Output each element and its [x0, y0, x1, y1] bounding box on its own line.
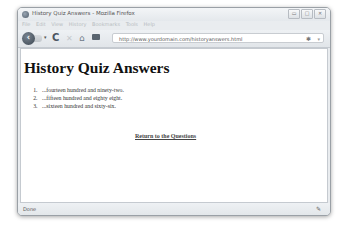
menu-bar: File Edit View History Bookmarks Tools H… — [18, 21, 330, 30]
page-content: History Quiz Answers ...fourteen hundred… — [20, 48, 328, 203]
back-arrow-icon: ‹ — [27, 33, 30, 42]
window-title: History Quiz Answers - Mozilla Firefox — [32, 10, 135, 16]
reload-icon[interactable]: C — [52, 32, 59, 44]
history-dropdown-icon[interactable]: ▾ — [44, 34, 47, 40]
title-bar: History Quiz Answers - Mozilla Firefox ▭… — [18, 8, 330, 21]
url-dropdown-icon[interactable]: ▾ — [317, 34, 320, 44]
maximize-button[interactable]: □ — [301, 9, 313, 19]
firefox-icon — [22, 11, 29, 18]
answers-list: ...fourteen hundred and ninety-two. ...f… — [31, 86, 124, 111]
menu-view[interactable]: View — [51, 21, 63, 27]
back-button[interactable]: ‹ — [22, 32, 35, 45]
menu-file[interactable]: File — [22, 21, 30, 27]
status-bar: Done ✎ — [18, 203, 330, 215]
resize-grip-icon[interactable]: ✎ — [316, 205, 321, 212]
address-bar[interactable]: http://www.yourdomain.com/historyanswers… — [112, 33, 324, 43]
menu-history[interactable]: History — [69, 21, 87, 27]
menu-edit[interactable]: Edit — [36, 21, 46, 27]
menu-bookmarks[interactable]: Bookmarks — [92, 21, 120, 27]
close-button[interactable]: ✕ — [314, 9, 326, 19]
window-controls: ▭ □ ✕ — [288, 9, 326, 19]
home-icon[interactable]: ⌂ — [79, 32, 85, 44]
status-text: Done — [23, 206, 36, 212]
stop-icon[interactable]: ✕ — [66, 33, 73, 44]
navigation-toolbar: ‹ ▾ C ✕ ⌂ http://www.yourdomain.com/hist… — [18, 30, 330, 48]
menu-tools[interactable]: Tools — [126, 21, 138, 27]
return-to-questions-link[interactable]: Return to the Questions — [135, 133, 196, 139]
url-text: http://www.yourdomain.com/historyanswers… — [119, 36, 242, 42]
menu-help[interactable]: Help — [144, 21, 155, 27]
minimize-button[interactable]: ▭ — [288, 9, 300, 19]
bookmark-star-icon[interactable]: ✱ — [306, 34, 311, 44]
answer-item: ...sixteen hundred and sixty-six. — [39, 102, 124, 110]
bookmarks-icon[interactable] — [92, 34, 100, 40]
answer-item: ...fifteen hundred and eighty eight. — [39, 94, 124, 102]
answer-item: ...fourteen hundred and ninety-two. — [39, 86, 124, 94]
page-title: History Quiz Answers — [24, 59, 170, 77]
browser-window: History Quiz Answers - Mozilla Firefox ▭… — [17, 7, 331, 216]
